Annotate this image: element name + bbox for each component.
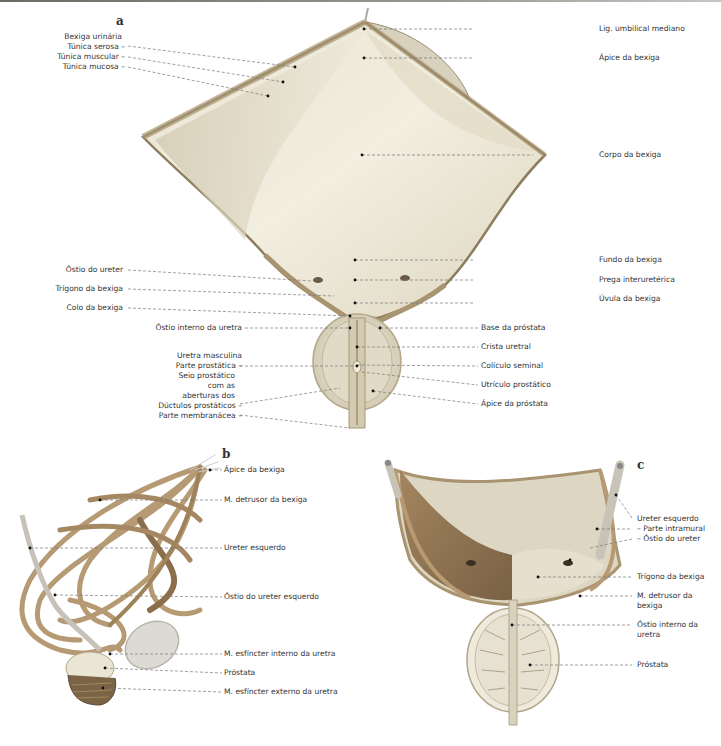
label-c-parte-intramural: – Parte intramural: [637, 524, 705, 534]
label-b-esfincter-externo: M. esfíncter externo da uretra: [224, 687, 338, 697]
label-fundo-bexiga: Fundo da bexiga: [599, 255, 662, 265]
label-c-ostio-interno-2: uretra: [637, 630, 660, 640]
label-tunica-serosa: Túnica serosa –: [67, 42, 125, 52]
label-b-ostio-ureter: Óstio do ureter esquerdo: [224, 592, 319, 602]
label-b-apice-bexiga: Ápice da bexiga: [224, 465, 285, 475]
label-c-ostio-interno-1: Óstio interno da: [637, 620, 698, 630]
label-c-ureter-esquerdo: Ureter esquerdo: [637, 514, 699, 524]
panel-letter-a: a: [116, 14, 124, 28]
label-b-ureter-esquerdo: Ureter esquerdo: [224, 543, 286, 553]
label-apice-prostata: Ápice da próstata: [481, 399, 548, 409]
label-crista-uretral: Crista uretral: [481, 342, 531, 352]
label-c-detrusor-2: bexiga: [637, 601, 662, 611]
label-seio-com-as: com as: [208, 381, 235, 391]
panel-letter-c: c: [637, 458, 644, 472]
label-coliculo-seminal: Colículo seminal: [481, 361, 543, 371]
label-parte-prostatica: Parte prostática –: [176, 361, 242, 371]
label-b-detrusor: M. detrusor da bexiga: [224, 495, 307, 505]
label-tunica-muscular: Túnica muscular –: [57, 52, 125, 62]
panel-b-detrusor: [22, 455, 220, 653]
label-ductulos: Dúctulos prostáticos –: [158, 401, 242, 411]
label-uvula-bexiga: Úvula da bexiga: [599, 294, 660, 304]
label-seio-aberturas: aberturas dos: [182, 391, 235, 401]
label-uretra-masculina: Uretra masculina: [177, 351, 242, 361]
label-seio-prostatico: Seio prostático: [178, 371, 235, 381]
label-base-prostata: Base da próstata: [481, 323, 545, 333]
label-ostio-interno: Óstio interno da uretra: [155, 323, 242, 333]
label-prega-interureterica: Prega interuretérica: [599, 275, 675, 285]
label-trigono: Trígono da bexiga: [56, 284, 123, 294]
label-colo: Colo da bexiga: [67, 303, 123, 313]
label-ostio-ureter: Óstio do ureter: [66, 265, 123, 275]
label-c-trigono: Trígono da bexiga: [637, 572, 704, 582]
panel-letter-b: b: [222, 447, 230, 461]
label-b-prostata: Próstata: [224, 668, 255, 678]
panel-c-bladder: [385, 460, 623, 725]
label-c-prostata: Próstata: [637, 660, 668, 670]
label-c-detrusor-1: M. detrusor da: [637, 591, 692, 601]
label-c-ostio-ureter: – Óstio do ureter: [637, 534, 700, 544]
label-utriculo-prostatico: Utrículo prostático: [481, 380, 551, 390]
label-apice-bexiga: Ápice da bexiga: [599, 53, 660, 63]
label-parte-membranacea: Parte membranácea –: [159, 411, 242, 421]
label-b-esfincter-interno: M. esfíncter interno da uretra: [224, 649, 335, 659]
label-corpo-bexiga: Corpo da bexiga: [599, 150, 661, 160]
anatomy-illustration: [0, 0, 721, 746]
label-lig-umbilical: Lig. umbilical mediano: [599, 24, 685, 34]
label-bexiga-urinaria: Bexiga urinária: [64, 32, 122, 42]
label-tunica-mucosa: Túnica mucosa –: [63, 62, 125, 72]
